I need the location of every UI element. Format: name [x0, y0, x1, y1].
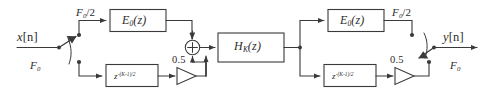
output-signal-label: y[n]	[443, 31, 464, 44]
left-upper-branch-wire	[79, 21, 106, 36]
right-lower-branch-wire	[300, 48, 320, 77]
adder-in-bottom-run	[193, 62, 207, 76]
block-diagram-figure: x[n] F0 F0/2 E0(z) z-(K-1)/2 0.5 HK(z) E…	[0, 0, 488, 97]
left-branch-rate-label: F0/2	[76, 7, 95, 20]
input-rate-label: F0	[30, 60, 40, 73]
output-contact-lower	[427, 60, 431, 64]
delay-block-left-label: z-(K-1)/2	[114, 72, 135, 81]
delay-block-right-label: z-(K-1)/2	[332, 72, 353, 81]
output-rate-label: F0	[450, 60, 460, 73]
left-gain-to-adder-wire	[196, 56, 206, 76]
gain-left-label: 0.5	[172, 55, 186, 66]
polyphase-block-right-label: E0(z)	[340, 14, 365, 28]
input-signal-label: x[n]	[17, 31, 38, 44]
gain-right-triangle	[395, 68, 414, 85]
left-lower-branch-wire	[79, 62, 102, 76]
output-contact-upper	[410, 33, 414, 37]
right-upper-branch-wire	[300, 21, 324, 48]
gain-left-triangle	[177, 68, 196, 85]
right-gain-to-switch-wire	[414, 62, 429, 76]
polyphase-block-left-label: E0(z)	[122, 14, 147, 28]
filter-block-label: HK(z)	[234, 40, 261, 54]
gain-right-label: 0.5	[390, 55, 404, 66]
left-upper-to-adder-wire	[166, 21, 192, 40]
right-branch-rate-label: F0/2	[392, 7, 411, 20]
right-upper-to-switch-wire	[384, 21, 412, 36]
